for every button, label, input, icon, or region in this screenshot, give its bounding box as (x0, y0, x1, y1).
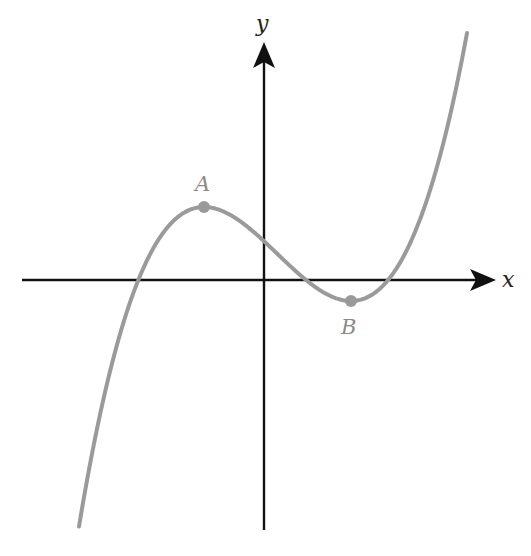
point-a-marker (198, 201, 210, 213)
cubic-graph: y x A B (0, 0, 531, 556)
point-a-label: A (193, 172, 210, 196)
x-axis-label: x (502, 267, 515, 292)
y-axis-label: y (255, 11, 269, 36)
point-b-marker (345, 295, 357, 307)
point-b-label: B (340, 315, 356, 339)
